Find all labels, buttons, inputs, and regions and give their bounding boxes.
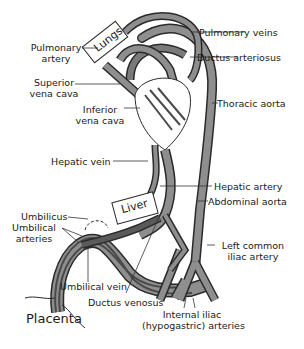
ductus-arteriosus-label: Ductus arteriosus: [197, 52, 281, 63]
internal-iliac-label-line2: (hypogastric) arteries: [142, 320, 242, 331]
placenta-label: Placenta: [26, 313, 82, 324]
internal-iliac-label: Internal iliac (hypogastric) arteries: [142, 309, 242, 331]
pulmonary-artery-label-line2: artery: [30, 53, 82, 64]
umbilical-arteries-label: Umbilical arteries: [8, 222, 60, 244]
inferior-vena-cava-label-line2: vena cava: [72, 115, 128, 126]
internal-iliac-label-line1: Internal iliac: [142, 309, 242, 320]
left-common-iliac-label-line1: Left common: [220, 240, 286, 251]
hepatic-artery-label: Hepatic artery: [214, 181, 282, 192]
superior-vena-cava-label: Superior vena cava: [28, 77, 80, 99]
ductus-venosus-label: Ductus venosus: [88, 297, 164, 308]
umbilical-vein-label: Umbilical vein: [60, 281, 127, 292]
pulmonary-artery-label-line1: Pulmonary: [30, 42, 82, 53]
superior-vena-cava-label-line2: vena cava: [28, 88, 80, 99]
umbilical-arteries-label-line2: arteries: [8, 233, 60, 244]
left-common-iliac-label-line2: iliac artery: [220, 251, 286, 262]
left-common-iliac-label: Left common iliac artery: [220, 240, 286, 262]
superior-vena-cava-label-line1: Superior: [28, 77, 80, 88]
inferior-vena-cava-label: Inferior vena cava: [72, 104, 128, 126]
hepatic-vein-label: Hepatic vein: [51, 156, 111, 167]
heart: [135, 78, 190, 150]
umbilicus-label: Umbilicus: [21, 211, 67, 222]
thoracic-aorta-label: Thoracic aorta: [217, 98, 286, 109]
inferior-vena-cava-label-line1: Inferior: [72, 104, 128, 115]
iliac-arteries: [160, 215, 215, 300]
pulmonary-artery-label: Pulmonary artery: [30, 42, 82, 64]
umbilical-arteries-label-line1: Umbilical: [8, 222, 60, 233]
umbilicus-marker: [85, 221, 108, 230]
abdominal-aorta-label: Abdominal aorta: [208, 196, 287, 207]
pulmonary-veins-label: Pulmonary veins: [199, 27, 278, 38]
